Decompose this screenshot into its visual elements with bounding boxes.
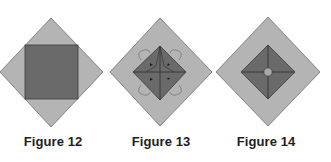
figure-13-diagram [110,18,212,126]
figure-12-caption: Figure 12 [3,134,103,149]
inner-square [25,45,78,99]
figure-14-caption: Figure 14 [216,134,316,149]
figure-13-caption: Figure 13 [111,134,211,149]
figure-14-diagram [216,17,320,126]
center-circle [264,68,272,76]
figure-12-diagram [0,18,103,127]
